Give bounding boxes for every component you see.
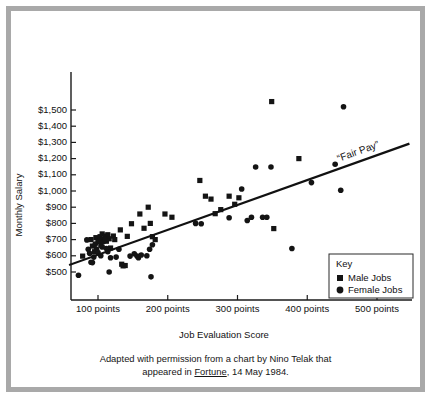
data-point-male bbox=[153, 237, 158, 242]
data-point-female bbox=[239, 186, 245, 192]
x-tick-label: 400 points bbox=[285, 303, 329, 314]
data-point-male bbox=[118, 227, 123, 232]
y-tick-label: $1,100 bbox=[38, 168, 67, 179]
legend-male-jobs-label: Male Jobs bbox=[348, 272, 392, 283]
data-point-male bbox=[162, 211, 167, 216]
y-tick-label: $700 bbox=[46, 233, 67, 244]
data-point-female bbox=[108, 255, 114, 261]
data-point-female bbox=[338, 187, 344, 193]
data-point-male bbox=[146, 205, 151, 210]
data-point-female bbox=[90, 260, 96, 266]
data-point-male bbox=[129, 221, 134, 226]
data-point-female bbox=[253, 164, 259, 170]
data-point-female bbox=[87, 251, 93, 257]
data-point-male bbox=[208, 197, 213, 202]
data-point-female bbox=[150, 242, 156, 248]
data-point-female bbox=[102, 237, 108, 243]
data-point-female bbox=[332, 161, 338, 167]
data-point-female bbox=[309, 180, 315, 186]
fair-pay-line bbox=[70, 144, 408, 265]
data-point-male bbox=[112, 237, 117, 242]
data-point-male bbox=[80, 254, 85, 259]
data-point-female bbox=[113, 254, 119, 260]
y-tick-label: $500 bbox=[46, 266, 67, 277]
y-axis-tick-labels: $500$600$700$800$900$1,000$1,100$1,200$1… bbox=[38, 104, 67, 277]
data-point-female bbox=[138, 252, 144, 258]
x-axis-title: Job Evaluation Score bbox=[179, 329, 269, 340]
y-tick-label: $1,300 bbox=[38, 136, 67, 147]
data-point-male bbox=[125, 234, 130, 239]
y-tick-label: $900 bbox=[46, 201, 67, 212]
data-point-female bbox=[341, 104, 347, 110]
y-tick-label: $1,000 bbox=[38, 185, 67, 196]
data-points-group bbox=[76, 99, 347, 280]
x-axis-tick-labels: 100 points200 points300 points400 points… bbox=[76, 303, 399, 314]
data-point-male bbox=[123, 263, 128, 268]
data-point-female bbox=[84, 237, 90, 243]
legend-title: Key bbox=[336, 258, 353, 269]
data-point-male bbox=[137, 211, 142, 216]
caption-source-name: Fortune bbox=[194, 366, 226, 377]
y-tick-label: $800 bbox=[46, 217, 67, 228]
data-point-male bbox=[269, 99, 274, 104]
y-tick-label: $1,500 bbox=[38, 104, 67, 115]
data-point-female bbox=[76, 272, 82, 278]
data-point-female bbox=[264, 214, 270, 220]
figure-container: $500$600$700$800$900$1,000$1,100$1,200$1… bbox=[0, 0, 431, 398]
data-point-female bbox=[249, 214, 255, 220]
data-point-male bbox=[296, 156, 301, 161]
data-point-male bbox=[141, 226, 146, 231]
data-point-male bbox=[236, 195, 241, 200]
data-point-male bbox=[227, 194, 232, 199]
data-point-female bbox=[289, 246, 295, 252]
caption-line-1: Adapted with permission from a chart by … bbox=[18, 352, 413, 365]
data-point-female bbox=[226, 215, 232, 221]
scatter-chart: $500$600$700$800$900$1,000$1,100$1,200$1… bbox=[0, 0, 431, 398]
data-point-female bbox=[106, 269, 112, 275]
y-tick-label: $1,200 bbox=[38, 152, 67, 163]
data-point-female bbox=[148, 274, 154, 280]
x-tick-label: 100 points bbox=[76, 303, 120, 314]
y-tick-label: $1,400 bbox=[38, 120, 67, 131]
data-point-female bbox=[144, 253, 150, 259]
legend-female-jobs-label: Female Jobs bbox=[348, 284, 403, 295]
plot-area: $500$600$700$800$900$1,000$1,100$1,200$1… bbox=[0, 0, 431, 398]
legend-circle-marker-icon bbox=[337, 287, 344, 294]
y-tick-label: $600 bbox=[46, 249, 67, 260]
data-point-male bbox=[148, 221, 153, 226]
caption-line-2: appeared in Fortune, 14 May 1984. bbox=[18, 365, 413, 378]
x-tick-label: 200 points bbox=[146, 303, 190, 314]
caption-suffix: , 14 May 1984. bbox=[227, 366, 289, 377]
data-point-male bbox=[203, 194, 208, 199]
data-point-female bbox=[198, 221, 204, 227]
fair-pay-trend-line: “Fair Pay” bbox=[70, 139, 408, 265]
y-axis-title: Monthly Salary bbox=[13, 173, 24, 236]
data-point-male bbox=[197, 178, 202, 183]
data-point-male bbox=[271, 226, 276, 231]
chart-legend: KeyMale JobsFemale Jobs bbox=[329, 254, 413, 298]
figure-caption: Adapted with permission from a chart by … bbox=[18, 352, 413, 378]
x-tick-label: 500 points bbox=[355, 303, 399, 314]
data-point-female bbox=[268, 164, 274, 170]
data-point-male bbox=[169, 215, 174, 220]
x-tick-label: 300 points bbox=[216, 303, 260, 314]
caption-prefix: appeared in bbox=[142, 366, 194, 377]
legend-square-marker-icon bbox=[337, 275, 343, 281]
fair-pay-label: “Fair Pay” bbox=[336, 139, 381, 164]
